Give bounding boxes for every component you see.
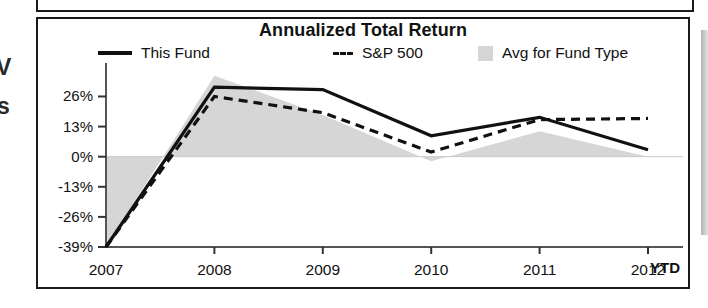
x-axis-ytd-label: YTD (650, 259, 680, 276)
screenshot-root: V s Annualized Total Return This Fund S&… (0, 0, 708, 308)
svg-text:2007: 2007 (89, 261, 123, 278)
svg-text:2011: 2011 (523, 261, 556, 278)
svg-text:-13%: -13% (58, 178, 93, 195)
clipped-text-fragment-top: V (0, 56, 10, 79)
plot-area: 26%13%0%-13%-26%-39%20072008200920102011… (38, 19, 688, 287)
svg-text:13%: 13% (63, 118, 93, 135)
svg-text:0%: 0% (71, 148, 93, 165)
svg-text:-39%: -39% (58, 238, 93, 255)
svg-text:2008: 2008 (197, 261, 231, 278)
clipped-text-fragment-bottom: s (0, 95, 9, 118)
svg-text:2009: 2009 (306, 261, 340, 278)
scan-artifact-right-edge (701, 30, 708, 235)
svg-text:-26%: -26% (58, 208, 93, 225)
chart-panel: Annualized Total Return This Fund S&P 50… (36, 17, 690, 289)
scan-artifact-box-above (36, 0, 694, 12)
line-chart-svg: 26%13%0%-13%-26%-39%20072008200920102011… (38, 19, 688, 287)
svg-text:2010: 2010 (414, 261, 449, 278)
svg-text:26%: 26% (63, 87, 93, 104)
